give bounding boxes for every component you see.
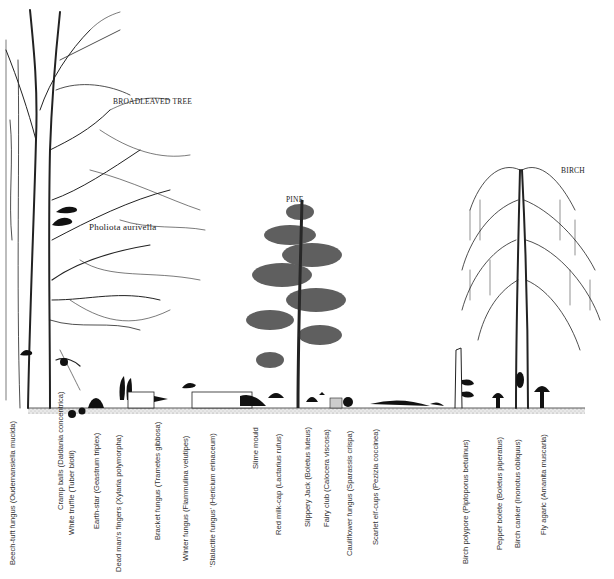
pine-tree-label: PINE: [286, 195, 303, 204]
species-label: White truffle (Tuber blotii): [67, 450, 76, 535]
species-label: Dead man's fingers (Xylaria polymorpha): [114, 435, 123, 572]
species-label: Beech-tuft fungus (Oudemansiella mucida): [8, 421, 17, 565]
species-label: Cramp balls (Daldania concentrica): [56, 391, 65, 510]
broadleaved-tree-label: BROADLEAVED TREE: [113, 97, 192, 106]
species-label: Scarlet elf-cups (Pezizia coccinea): [371, 429, 380, 545]
species-label: Bracket fungus (Trametes gibbosa): [153, 422, 162, 540]
species-label: Winter fungus (Flammulina velutipes): [181, 436, 190, 561]
species-label: 'Stalactite fungus' (Hericium erinaceum): [208, 433, 217, 567]
species-label: Birch polypore (Piptoporus betulinus): [461, 439, 470, 564]
species-label: Cauliflower fungus (Sparassis crispa): [345, 431, 354, 556]
species-label: Birch canker (Inonotus obliquus): [513, 439, 522, 548]
species-label: Fairy club (Calocera viscosa): [322, 429, 331, 527]
species-label: Pepper bolete (Boletus piperatus): [495, 437, 504, 550]
species-label: Slippery Jack (Boletus luteus): [303, 427, 312, 527]
birch-tree: [455, 167, 600, 408]
birch-tree-label: BIRCH: [561, 166, 585, 175]
pholiota-label: Pholiota aurivella: [89, 222, 156, 232]
pine-tree: [246, 200, 444, 408]
broadleaved-tree: [6, 10, 205, 408]
species-label: Slime mould: [251, 427, 260, 469]
species-label: Red milk-cap (Lactarius rufus): [274, 434, 283, 535]
species-label: Fly agaric (Amanita muscaria): [539, 434, 548, 535]
species-label: Earth-star (Geastrum triplex): [92, 433, 101, 529]
ground: [28, 408, 585, 414]
